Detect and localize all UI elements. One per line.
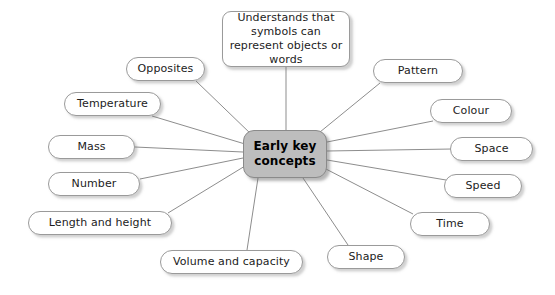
edge-center-to-space xyxy=(327,149,452,151)
node-label-shape: Shape xyxy=(349,250,384,264)
node-label-opposites: Opposites xyxy=(138,62,194,76)
node-number[interactable]: Number xyxy=(48,172,140,196)
node-label-temperature: Temperature xyxy=(77,97,148,111)
node-shape[interactable]: Shape xyxy=(327,245,405,269)
edge-center-to-volume-and-capacity xyxy=(247,178,258,250)
node-label-speed: Speed xyxy=(466,179,501,193)
node-opposites[interactable]: Opposites xyxy=(126,57,205,81)
node-label-time: Time xyxy=(436,217,463,231)
node-mass[interactable]: Mass xyxy=(48,135,135,159)
edge-center-to-opposites xyxy=(196,81,252,135)
node-understands[interactable]: Understands that symbols can represent o… xyxy=(222,11,350,67)
edge-center-to-temperature xyxy=(152,116,245,144)
node-pattern[interactable]: Pattern xyxy=(373,59,463,83)
node-time[interactable]: Time xyxy=(410,212,490,236)
node-label-length-and-height: Length and height xyxy=(49,216,151,230)
edge-center-to-mass xyxy=(135,147,243,152)
node-label-colour: Colour xyxy=(453,104,489,118)
edge-center-to-colour xyxy=(327,121,433,142)
node-label-pattern: Pattern xyxy=(398,64,438,78)
edge-center-to-number xyxy=(140,158,243,179)
center-node-early-key-concepts[interactable]: Early key concepts xyxy=(243,130,327,178)
edge-center-to-pattern xyxy=(320,83,380,132)
node-label-volume-and-capacity: Volume and capacity xyxy=(173,255,290,269)
node-label-understands: Understands that symbols can represent o… xyxy=(229,11,343,67)
node-label-space: Space xyxy=(474,142,508,156)
node-length-and-height[interactable]: Length and height xyxy=(28,211,172,235)
node-label-number: Number xyxy=(72,177,117,191)
edge-center-to-length-and-height xyxy=(168,166,245,213)
edge-center-to-shape xyxy=(303,178,348,245)
mind-map-diagram: Early key conceptsUnderstands that symbo… xyxy=(0,0,555,295)
node-space[interactable]: Space xyxy=(450,137,533,161)
node-label-mass: Mass xyxy=(77,140,105,154)
center-node-label: Early key concepts xyxy=(244,139,326,169)
node-volume-and-capacity[interactable]: Volume and capacity xyxy=(160,250,303,274)
node-colour[interactable]: Colour xyxy=(430,99,512,123)
edge-center-to-speed xyxy=(327,160,446,180)
node-temperature[interactable]: Temperature xyxy=(64,92,161,116)
edge-center-to-time xyxy=(324,168,413,214)
node-speed[interactable]: Speed xyxy=(444,174,522,198)
